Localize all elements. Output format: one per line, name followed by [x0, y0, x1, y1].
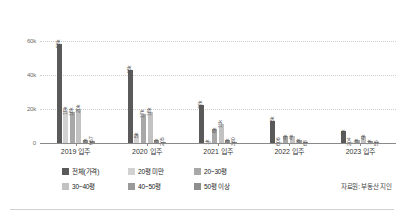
bar-value-label: 8k	[211, 128, 217, 133]
legend-label: 20~30평	[204, 166, 227, 176]
bar-value-label: 58k	[55, 40, 61, 48]
bar-value-label: 380	[230, 137, 236, 146]
legend-item[interactable]: 50평 이상	[194, 181, 260, 191]
bar-value-label: 606	[275, 137, 281, 146]
bar-value-label: 4k	[360, 135, 366, 140]
bar-value-label: 22k	[197, 101, 203, 109]
legend-swatch-icon	[128, 183, 135, 190]
bar	[76, 109, 81, 143]
bar	[141, 114, 146, 143]
legend-swatch-icon	[62, 183, 69, 190]
legend-swatch-icon	[194, 183, 201, 190]
x-axis-label: 2020 입주	[132, 146, 162, 156]
bar-value-label: 19k	[62, 106, 68, 114]
legend-swatch-icon	[194, 168, 201, 175]
bar-value-label: 957	[88, 137, 94, 146]
bar-value-label: 7k	[340, 130, 346, 135]
chart-figure: 020k40k60k 58k19k18k20k2k95743k5k17k18k2…	[0, 0, 404, 219]
bar-group: 7k2042k4k1k55	[325, 0, 396, 160]
legend-label: 50평 이상	[204, 181, 230, 191]
legend-item[interactable]: 30~40평	[62, 181, 128, 191]
bar-group: 58k19k18k20k2k957	[40, 0, 111, 160]
bar	[70, 112, 75, 143]
bar-value-label: 4k	[288, 135, 294, 140]
bar-value-label: 17k	[139, 110, 145, 118]
legend-label: 전체(가격)	[72, 166, 99, 176]
y-tick-label: 60k	[27, 38, 36, 44]
x-axis-label: 2023 입주	[346, 146, 376, 156]
bar	[57, 44, 62, 143]
bar-value-label: 205	[159, 137, 165, 146]
legend-swatch-icon	[62, 168, 69, 175]
y-tick-label: 40k	[27, 72, 36, 78]
bar-value-label: 5k	[133, 133, 139, 138]
bar-value-label: 4k	[282, 135, 288, 140]
legend-label: 40~50평	[138, 181, 161, 191]
source-note: 자료원: 부동산 지인	[341, 181, 392, 191]
legend-item[interactable]: 전체(가격)	[62, 166, 128, 176]
bar-group: 22k1k8k11k2k380	[182, 0, 253, 160]
legend-item[interactable]: 20~30평	[194, 166, 260, 176]
bar	[148, 112, 153, 143]
bar-value-label: 11k	[217, 120, 223, 128]
footer-divider	[10, 209, 394, 210]
bar-value-label: 20k	[75, 105, 81, 113]
bar-group: 13k6064k4k2k68	[254, 0, 325, 160]
legend-label: 30~40평	[72, 181, 95, 191]
bar-value-label: 18k	[146, 108, 152, 116]
bar-group: 43k5k17k18k2k205	[111, 0, 182, 160]
x-axis-label: 2021 입주	[203, 146, 233, 156]
x-axis-label: 2019 입주	[61, 146, 91, 156]
bar-value-label: 204	[346, 137, 352, 146]
chart-legend: 전체(가격)20평 미만20~30평30~40평40~50평50평 이상	[62, 166, 262, 196]
bar	[199, 105, 204, 143]
legend-item[interactable]: 40~50평	[128, 181, 194, 191]
bar-value-label: 13k	[269, 117, 275, 125]
bar-value-label: 18k	[68, 108, 74, 116]
x-axis-label: 2022 입주	[274, 146, 304, 156]
y-axis: 020k40k60k	[0, 0, 40, 160]
legend-swatch-icon	[128, 168, 135, 175]
legend-item[interactable]: 20평 미만	[128, 166, 194, 176]
y-tick-label: 20k	[27, 106, 36, 112]
bar-groups: 58k19k18k20k2k95743k5k17k18k2k20522k1k8k…	[40, 0, 396, 160]
x-axis-labels: 2019 입주2020 입주2021 입주2022 입주2023 입주	[40, 146, 396, 160]
plot-area: 020k40k60k 58k19k18k20k2k95743k5k17k18k2…	[0, 0, 404, 160]
legend-label: 20평 미만	[138, 166, 164, 176]
bar-value-label: 43k	[126, 65, 132, 73]
y-tick-label: 0	[33, 140, 36, 146]
